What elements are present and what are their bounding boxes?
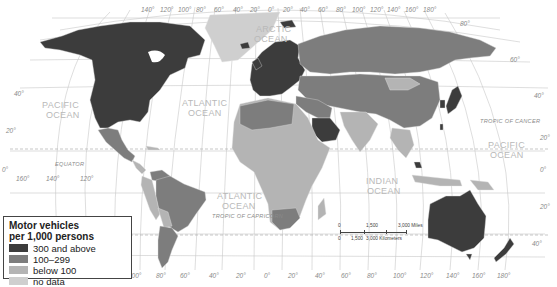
australia bbox=[428, 190, 486, 252]
label-pacific-ocean-right: PACIFIC bbox=[488, 140, 525, 150]
malaysia bbox=[414, 162, 422, 168]
legend-item-no-data: no data bbox=[9, 276, 126, 286]
svg-text:80°: 80° bbox=[367, 272, 377, 279]
svg-text:0°: 0° bbox=[2, 166, 9, 173]
svg-text:40°: 40° bbox=[315, 272, 325, 279]
scale-miles-end: 3,000 Miles bbox=[398, 223, 423, 228]
swatch-light bbox=[9, 266, 28, 274]
russia bbox=[298, 26, 496, 74]
svg-text:140°: 140° bbox=[446, 272, 460, 279]
equator-longitude-labels: 160° 140° 120° bbox=[16, 175, 94, 182]
svg-text:0°: 0° bbox=[540, 166, 547, 173]
svg-text:60°: 60° bbox=[341, 272, 351, 279]
svg-text:40°: 40° bbox=[532, 240, 542, 247]
mexico bbox=[98, 128, 135, 162]
india-south-asia bbox=[340, 112, 378, 152]
label-pacific-ocean-right-2: OCEAN bbox=[490, 150, 524, 160]
label-atlantic-ocean-north: ATLANTIC bbox=[182, 98, 227, 108]
label-atlantic-ocean-south-2: OCEAN bbox=[222, 201, 256, 211]
label-indian-ocean-2: OCEAN bbox=[367, 186, 401, 196]
svg-text:140°: 140° bbox=[387, 6, 401, 13]
svg-text:60°: 60° bbox=[180, 272, 190, 279]
svg-text:20°: 20° bbox=[287, 272, 298, 279]
label-arctic-ocean-2: OCEAN bbox=[254, 34, 288, 44]
svg-text:40°: 40° bbox=[233, 6, 243, 13]
svg-text:40°: 40° bbox=[14, 90, 24, 97]
taiwan bbox=[440, 124, 443, 130]
label-equator: EQUATOR bbox=[55, 161, 84, 167]
legend: Motor vehicles per 1,000 persons 300 and… bbox=[3, 216, 132, 279]
svg-text:20°: 20° bbox=[249, 6, 260, 13]
top-longitude-labels: 140° 120° 100° 80° 60° 40° 20° 0° 20° 40… bbox=[141, 6, 437, 13]
scale-line bbox=[340, 232, 406, 233]
svg-text:0°: 0° bbox=[264, 272, 271, 279]
swatch-dark bbox=[9, 244, 28, 252]
swatch-mid bbox=[9, 255, 28, 263]
svg-text:80°: 80° bbox=[196, 6, 206, 13]
legend-label: no data bbox=[33, 276, 65, 287]
label-pacific-ocean-left-2: OCEAN bbox=[46, 110, 80, 120]
svg-text:60°: 60° bbox=[214, 6, 224, 13]
label-arctic-ocean: ARCTIC bbox=[256, 24, 291, 34]
new-zealand bbox=[494, 238, 514, 262]
scale-miles-mid: 1,500 bbox=[366, 223, 378, 228]
label-pacific-ocean-left: PACIFIC bbox=[42, 100, 79, 110]
label-indian-ocean: INDIAN bbox=[366, 176, 398, 186]
svg-text:180°: 180° bbox=[423, 6, 437, 13]
argentina-chile bbox=[158, 226, 178, 268]
japan bbox=[446, 86, 462, 114]
svg-text:60°: 60° bbox=[510, 56, 520, 63]
legend-item-100-299: 100–299 bbox=[9, 254, 126, 264]
svg-text:20°: 20° bbox=[282, 6, 293, 13]
scale-km-mid: 1,500 bbox=[351, 236, 363, 241]
legend-label: 100–299 bbox=[33, 254, 70, 265]
svg-text:40°: 40° bbox=[209, 272, 219, 279]
svg-text:160°: 160° bbox=[16, 175, 30, 182]
svg-text:40°: 40° bbox=[534, 92, 544, 99]
svg-text:100°: 100° bbox=[178, 6, 192, 13]
svg-text:20°: 20° bbox=[5, 127, 16, 134]
svg-text:60°: 60° bbox=[318, 6, 328, 13]
svg-text:20°: 20° bbox=[539, 203, 550, 210]
svg-text:120°: 120° bbox=[370, 6, 384, 13]
svg-text:100°: 100° bbox=[393, 272, 407, 279]
legend-label: below 100 bbox=[33, 265, 76, 276]
scale-miles-zero: 0 bbox=[338, 223, 341, 228]
legend-label: 300 and above bbox=[33, 243, 96, 254]
svg-text:20°: 20° bbox=[235, 272, 246, 279]
label-tropic-of-capricorn: TROPIC OF CAPRICORN bbox=[212, 213, 284, 219]
svg-text:160°: 160° bbox=[405, 6, 419, 13]
legend-item-below-100: below 100 bbox=[9, 265, 126, 275]
svg-text:80°: 80° bbox=[460, 20, 470, 27]
svg-text:140°: 140° bbox=[46, 175, 60, 182]
legend-title-line1: Motor vehicles bbox=[9, 220, 126, 231]
svg-text:100°: 100° bbox=[352, 6, 366, 13]
svg-text:140°: 140° bbox=[141, 6, 155, 13]
svg-text:80°: 80° bbox=[336, 6, 346, 13]
svg-text:0°: 0° bbox=[268, 6, 275, 13]
svg-text:120°: 120° bbox=[420, 272, 434, 279]
svg-text:160°: 160° bbox=[472, 272, 486, 279]
scale-km-end: 3,000 Kilometers bbox=[366, 236, 402, 241]
scale-bar: 0 1,500 3,000 Miles 0 1,500 3,000 Kilome… bbox=[338, 223, 428, 245]
label-atlantic-ocean-north-2: OCEAN bbox=[188, 108, 222, 118]
scale-km-zero: 0 bbox=[338, 236, 341, 241]
label-tropic-of-cancer: TROPIC OF CANCER bbox=[480, 118, 540, 124]
south-korea bbox=[440, 100, 445, 108]
svg-text:80°: 80° bbox=[156, 272, 166, 279]
madagascar bbox=[318, 198, 326, 220]
legend-title-line2: per 1,000 persons bbox=[9, 231, 126, 242]
left-latitude-labels: 40° 20° 0° bbox=[2, 90, 24, 173]
legend-item-300-above: 300 and above bbox=[9, 243, 126, 253]
bottom-longitude-labels: 100° 80° 60° 40° 20° 0° 20° 40° 60° 80° … bbox=[128, 272, 511, 279]
svg-text:20°: 20° bbox=[539, 134, 550, 141]
svg-text:120°: 120° bbox=[160, 6, 174, 13]
svg-text:120°: 120° bbox=[80, 175, 94, 182]
swatch-nodata bbox=[9, 277, 28, 285]
papua-new-guinea bbox=[470, 180, 494, 190]
indonesia bbox=[412, 175, 462, 186]
label-atlantic-ocean-south: ATLANTIC bbox=[217, 191, 262, 201]
svg-text:180°: 180° bbox=[497, 272, 511, 279]
svg-text:40°: 40° bbox=[300, 6, 310, 13]
